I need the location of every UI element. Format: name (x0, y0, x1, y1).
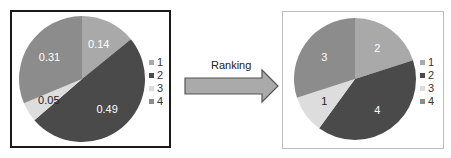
legend-item-3: 3 (149, 82, 163, 95)
legend-item-2: 2 (149, 69, 163, 82)
original-legend: 1 2 3 4 (149, 56, 163, 108)
legend-swatch-4 (420, 99, 425, 104)
legend-label: 4 (157, 95, 163, 108)
original-pie-chart-panel: 0.140.490.050.31 1 2 3 4 (10, 10, 171, 148)
legend-label: 2 (428, 69, 434, 82)
legend-swatch-3 (149, 86, 154, 91)
slice-label-4: 0.31 (39, 51, 60, 63)
legend-label: 4 (428, 95, 434, 108)
legend-item-1: 1 (420, 56, 434, 69)
slice-label-1: 0.14 (88, 38, 109, 50)
slice-label-1: 2 (374, 42, 380, 54)
legend-swatch-1 (149, 60, 154, 65)
ranked-legend: 1 2 3 4 (420, 56, 434, 108)
legend-item-2: 2 (420, 69, 434, 82)
slice-label-4: 3 (321, 51, 327, 63)
slice-label-2: 4 (374, 104, 380, 116)
legend-swatch-4 (149, 99, 154, 104)
legend-label: 2 (157, 69, 163, 82)
legend-label: 3 (428, 82, 434, 95)
slice-label-3: 1 (321, 95, 327, 107)
legend-item-1: 1 (149, 56, 163, 69)
legend-swatch-2 (149, 73, 154, 78)
legend-item-4: 4 (149, 95, 163, 108)
legend-label: 3 (157, 82, 163, 95)
legend-swatch-3 (420, 86, 425, 91)
legend-swatch-1 (420, 60, 425, 65)
legend-item-4: 4 (420, 95, 434, 108)
legend-swatch-2 (420, 73, 425, 78)
right-arrow-icon (184, 68, 280, 104)
legend-item-3: 3 (420, 82, 434, 95)
legend-label: 1 (157, 56, 163, 69)
legend-label: 1 (428, 56, 434, 69)
ranked-pie-chart-panel: 2413 1 2 3 4 (282, 11, 444, 149)
slice-label-2: 0.49 (96, 103, 117, 115)
